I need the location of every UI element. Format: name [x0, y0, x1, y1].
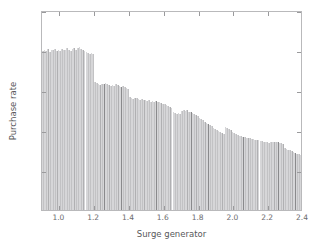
y-axis-tick [42, 92, 46, 93]
y-axis-tick [42, 172, 46, 173]
bar [301, 156, 302, 210]
x-axis-tick [233, 206, 234, 210]
y-axis-tick [297, 132, 301, 133]
x-axis-tick [59, 206, 60, 210]
x-tick-label: 1.0 [46, 214, 70, 222]
y-axis-tick [42, 132, 46, 133]
x-tick-label: 1.6 [151, 214, 175, 222]
x-axis-tick [59, 12, 60, 16]
x-tick-label: 1.2 [81, 214, 105, 222]
x-axis-tick [199, 12, 200, 16]
x-tick-label: 1.4 [116, 214, 140, 222]
y-axis-tick [297, 52, 301, 53]
x-axis-tick [199, 206, 200, 210]
x-axis-tick [164, 12, 165, 16]
x-tick-label: 2.2 [255, 214, 279, 222]
x-tick-label: 1.8 [186, 214, 210, 222]
y-axis-tick [42, 12, 46, 13]
plot-area [41, 11, 302, 211]
x-axis-tick [268, 12, 269, 16]
x-axis-tick [164, 206, 165, 210]
x-axis-tick [268, 206, 269, 210]
y-axis-tick [42, 52, 46, 53]
x-axis-tick [129, 206, 130, 210]
x-axis-tick [94, 206, 95, 210]
x-axis-title: Surge generator [41, 229, 302, 239]
chart-figure: Purchase rate Surge generator 0.20.30.40… [0, 0, 312, 251]
x-axis-tick [94, 12, 95, 16]
bar-series [42, 12, 301, 210]
y-axis-tick [297, 92, 301, 93]
x-tick-label: 2.0 [220, 214, 244, 222]
x-axis-tick [233, 12, 234, 16]
x-axis-tick [129, 12, 130, 16]
y-axis-title: Purchase rate [8, 11, 20, 211]
x-tick-label: 2.4 [290, 214, 312, 222]
y-axis-tick [297, 172, 301, 173]
y-axis-tick [297, 12, 301, 13]
